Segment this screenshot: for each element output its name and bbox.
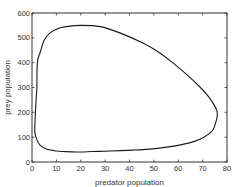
- x-tick-label: 0: [30, 164, 34, 173]
- y-tick-label: 300: [17, 83, 30, 92]
- y-tick-label: 400: [17, 58, 30, 67]
- x-tick-label: 50: [150, 164, 158, 173]
- phase-plane-chart: 010203040506070800100200300400500600 pre…: [0, 0, 243, 187]
- y-axis-label: prey population: [3, 60, 12, 115]
- y-tick-label: 500: [17, 33, 30, 42]
- x-tick-label: 40: [125, 164, 133, 173]
- x-tick-label: 30: [101, 164, 109, 173]
- y-tick-label: 100: [17, 133, 30, 142]
- y-tick-label: 200: [17, 108, 30, 117]
- x-tick-label: 80: [223, 164, 231, 173]
- x-tick-label: 10: [52, 164, 60, 173]
- x-tick-label: 20: [77, 164, 85, 173]
- x-tick-label: 60: [174, 164, 182, 173]
- y-tick-label: 600: [17, 9, 30, 18]
- x-axis-label: predator population: [95, 178, 164, 187]
- x-tick-label: 70: [198, 164, 206, 173]
- y-tick-label: 0: [26, 158, 30, 167]
